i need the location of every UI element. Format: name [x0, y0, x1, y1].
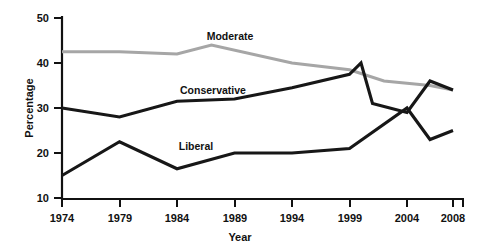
line-chart: 50 40 30 20 10 1974 1979 1984 1989 1994 …	[0, 0, 496, 251]
x-tick-label-2004: 2004	[395, 212, 420, 224]
x-tick-label-1984: 1984	[165, 212, 190, 224]
y-axis-title: Percentage	[23, 78, 35, 137]
x-tick-label-1989: 1989	[223, 212, 247, 224]
y-axis-ticks	[54, 18, 62, 198]
series-label-liberal: Liberal	[179, 140, 214, 152]
y-tick-label-20: 20	[37, 147, 49, 159]
x-tick-label-1974: 1974	[50, 212, 75, 224]
series-label-moderate: Moderate	[207, 30, 254, 42]
x-tick-label-1979: 1979	[108, 212, 132, 224]
y-tick-label-10: 10	[37, 192, 49, 204]
y-tick-label-40: 40	[37, 57, 49, 69]
y-tick-label-50: 50	[37, 12, 49, 24]
x-tick-label-1999: 1999	[338, 212, 362, 224]
x-tick-label-1994: 1994	[280, 212, 305, 224]
x-axis-ticks	[62, 199, 463, 207]
chart-svg: 50 40 30 20 10 1974 1979 1984 1989 1994 …	[0, 0, 496, 251]
series-label-conservative: Conservative	[180, 84, 246, 96]
series-line-conservative	[62, 63, 453, 117]
series-line-moderate	[62, 45, 453, 90]
x-axis-title: Year	[228, 231, 252, 243]
x-tick-label-2008: 2008	[441, 212, 465, 224]
y-tick-label-30: 30	[37, 102, 49, 114]
